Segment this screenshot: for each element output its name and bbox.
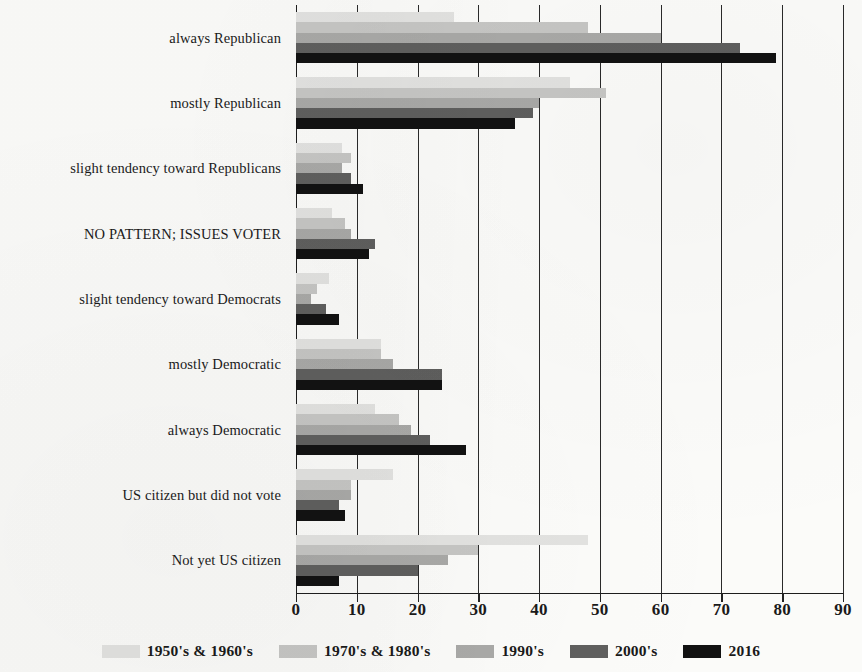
legend-label: 1990's	[501, 642, 544, 660]
legend-item[interactable]: 2000's	[570, 642, 658, 660]
bar	[296, 510, 345, 520]
bar	[296, 469, 393, 479]
legend-swatch-icon	[102, 645, 140, 658]
plot-area	[296, 5, 843, 593]
bar	[296, 535, 588, 545]
gridline-90	[843, 5, 844, 593]
category-label: always Democratic	[168, 423, 281, 438]
bar	[296, 229, 351, 239]
bar	[296, 22, 588, 32]
legend-swatch-icon	[456, 645, 494, 658]
bar	[296, 500, 339, 510]
tick-label-40: 40	[530, 600, 548, 620]
category-label: US citizen but did not vote	[122, 488, 281, 503]
legend-item[interactable]: 1950's & 1960's	[102, 642, 253, 660]
bar	[296, 284, 317, 294]
gridline-60	[661, 5, 662, 593]
bar	[296, 153, 351, 163]
bar	[296, 43, 740, 53]
legend-label: 1950's & 1960's	[147, 642, 253, 660]
bar	[296, 490, 351, 500]
bar	[296, 339, 381, 349]
bar	[296, 108, 533, 118]
bar	[296, 414, 399, 424]
legend-swatch-icon	[279, 645, 317, 658]
tick-label-30: 30	[470, 600, 488, 620]
tick-label-50: 50	[591, 600, 609, 620]
bar	[296, 555, 448, 565]
bar	[296, 143, 342, 153]
x-axis-line	[296, 593, 844, 594]
grouped-bar-chart: always Republicanmostly Republicanslight…	[0, 0, 862, 672]
bar	[296, 218, 345, 228]
tick-label-20: 20	[409, 600, 427, 620]
bar	[296, 359, 393, 369]
category-axis-labels: always Republicanmostly Republicanslight…	[0, 0, 289, 593]
category-label: always Republican	[169, 31, 281, 46]
category-label: slight tendency toward Democrats	[79, 292, 281, 307]
bar	[296, 12, 454, 22]
bar	[296, 380, 442, 390]
bar	[296, 239, 375, 249]
tick-label-70: 70	[713, 600, 731, 620]
bar	[296, 208, 332, 218]
bar	[296, 445, 466, 455]
category-label: slight tendency toward Republicans	[70, 161, 281, 176]
category-label: NO PATTERN; ISSUES VOTER	[84, 227, 281, 242]
bar	[296, 53, 776, 63]
tick-label-90: 90	[834, 600, 852, 620]
bar	[296, 314, 339, 324]
bar	[296, 435, 430, 445]
bar	[296, 576, 339, 586]
bar	[296, 294, 311, 304]
gridline-80	[782, 5, 783, 593]
tick-label-80: 80	[773, 600, 791, 620]
tick-label-0: 0	[292, 600, 301, 620]
legend-item[interactable]: 1990's	[456, 642, 544, 660]
bar	[296, 33, 661, 43]
legend-swatch-icon	[683, 645, 721, 658]
legend-label: 1970's & 1980's	[324, 642, 430, 660]
bar	[296, 545, 478, 555]
bar	[296, 249, 369, 259]
bar	[296, 404, 375, 414]
legend-item[interactable]: 2016	[683, 642, 760, 660]
bar	[296, 77, 570, 87]
category-label: mostly Republican	[170, 96, 281, 111]
plot-wrapper: always Republicanmostly Republicanslight…	[0, 0, 862, 598]
legend-label: 2000's	[615, 642, 658, 660]
tick-label-60: 60	[652, 600, 670, 620]
legend-swatch-icon	[570, 645, 608, 658]
bar	[296, 369, 442, 379]
bar	[296, 173, 351, 183]
bar	[296, 184, 363, 194]
legend-item[interactable]: 1970's & 1980's	[279, 642, 430, 660]
category-label: Not yet US citizen	[172, 553, 281, 568]
gridline-70	[721, 5, 722, 593]
bar	[296, 304, 326, 314]
bar	[296, 88, 606, 98]
bar	[296, 273, 329, 283]
legend-label: 2016	[728, 642, 760, 660]
bar	[296, 480, 351, 490]
bar	[296, 118, 515, 128]
bar	[296, 98, 539, 108]
bar	[296, 425, 411, 435]
chart-legend: 1950's & 1960's1970's & 1980's1990's2000…	[0, 636, 862, 666]
category-label: mostly Democratic	[169, 357, 281, 372]
bar	[296, 565, 418, 575]
tick-label-10: 10	[348, 600, 366, 620]
bar	[296, 349, 381, 359]
bar	[296, 163, 342, 173]
